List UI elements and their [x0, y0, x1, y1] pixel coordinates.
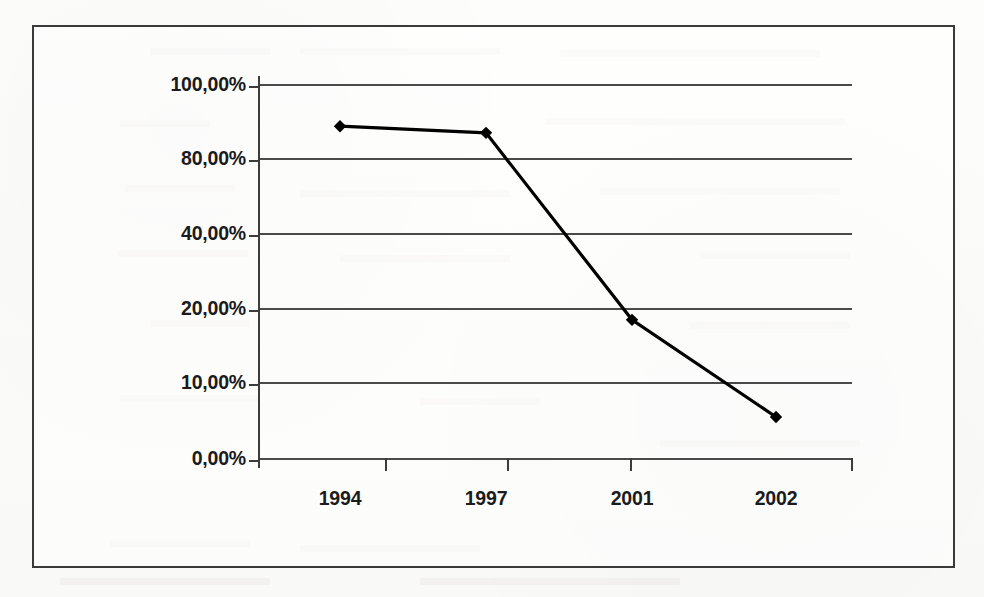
- y-tick-20: [249, 310, 258, 312]
- y-tick-80: [249, 160, 258, 162]
- y-axis-line: [258, 76, 260, 468]
- y-axis-tick-label: 40,00%: [86, 222, 246, 245]
- y-tick-10: [249, 384, 258, 386]
- y-tick-0: [249, 460, 258, 462]
- scanned-page: 100,00% 80,00% 40,00% 20,00% 10,00% 0,00…: [0, 0, 984, 597]
- x-axis-tick-label: 2001: [572, 487, 692, 510]
- x-axis-tick-label: 1997: [426, 487, 546, 510]
- y-axis-tick-label: 80,00%: [86, 147, 246, 170]
- gridline-20: [258, 308, 852, 310]
- y-tick-100: [249, 86, 258, 88]
- gridline-80: [258, 158, 852, 160]
- y-tick-40: [249, 235, 258, 237]
- paper-bleed-artifact: [420, 578, 680, 585]
- x-tick-boundary: [851, 458, 853, 471]
- x-axis-tick-label: 2002: [716, 487, 836, 510]
- x-axis-tick-label: 1994: [280, 487, 400, 510]
- gridline-40: [258, 233, 852, 235]
- y-axis-tick-label: 20,00%: [86, 297, 246, 320]
- x-tick-boundary: [630, 458, 632, 471]
- x-axis-baseline: [258, 458, 852, 460]
- gridline-100: [258, 84, 852, 86]
- x-tick-boundary: [507, 458, 509, 471]
- plot-area: [258, 84, 852, 458]
- gridline-10: [258, 382, 852, 384]
- y-axis-tick-label: 0,00%: [86, 447, 246, 470]
- x-tick-boundary: [385, 458, 387, 471]
- y-axis-tick-label: 100,00%: [86, 73, 246, 96]
- y-axis-tick-label: 10,00%: [86, 371, 246, 394]
- y-axis-labels: 100,00% 80,00% 40,00% 20,00% 10,00% 0,00…: [78, 0, 246, 597]
